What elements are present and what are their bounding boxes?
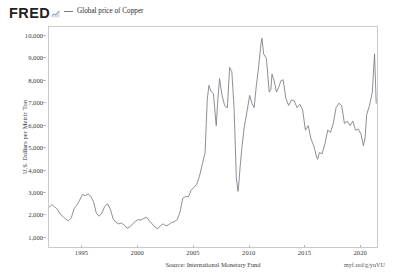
line-swatch-icon: [64, 11, 73, 12]
y-tick-mark: [43, 147, 46, 148]
y-tick-mark: [43, 80, 46, 81]
fred-chart-figure: FRED Global price of Copper 1,0002,0003,…: [0, 0, 397, 280]
x-tick-mark: [137, 245, 138, 248]
y-tick-label: 9,000: [28, 54, 43, 61]
y-tick-label: 6,000: [28, 121, 43, 128]
fred-logo: FRED: [9, 6, 50, 21]
x-axis: 199520002005201020152020: [48, 249, 378, 261]
y-tick-label: 3,000: [28, 188, 43, 195]
y-tick-mark: [43, 57, 46, 58]
series-line-copper: [49, 27, 378, 248]
x-tick-mark: [249, 245, 250, 248]
x-tick-label: 2005: [186, 249, 199, 256]
x-tick-label: 2020: [354, 249, 367, 256]
x-tick-mark: [360, 245, 361, 248]
mini-line-chart-icon: [51, 10, 60, 18]
y-tick-mark: [43, 214, 46, 215]
x-tick-label: 2000: [131, 249, 144, 256]
permalink-url[interactable]: myf.red/g/yuVU: [344, 261, 385, 268]
y-tick-label: 2,000: [28, 211, 43, 218]
y-tick-mark: [43, 237, 46, 238]
x-tick-label: 2010: [242, 249, 255, 256]
y-tick-label: 5,000: [28, 144, 43, 151]
x-tick-mark: [304, 245, 305, 248]
x-tick-label: 1995: [75, 249, 88, 256]
y-tick-mark: [43, 35, 46, 36]
chart-footer: Source: International Monetary Fund myf.…: [0, 261, 397, 275]
chart-legend: Global price of Copper: [64, 7, 143, 15]
y-tick-mark: [43, 170, 46, 171]
y-tick-mark: [43, 125, 46, 126]
x-tick-label: 2015: [298, 249, 311, 256]
y-tick-mark: [43, 192, 46, 193]
legend-series-label: Global price of Copper: [77, 7, 143, 15]
plot-area: [48, 26, 378, 248]
y-tick-label: 1,000: [28, 233, 43, 240]
y-tick-mark: [43, 102, 46, 103]
x-tick-mark: [193, 245, 194, 248]
y-axis-title: U.S. Dollars per Metric Ton: [19, 26, 30, 248]
y-tick-label: 8,000: [28, 76, 43, 83]
x-tick-mark: [81, 245, 82, 248]
y-tick-label: 4,000: [28, 166, 43, 173]
chart-header: FRED Global price of Copper: [0, 0, 397, 26]
source-note: Source: International Monetary Fund: [48, 261, 378, 268]
y-tick-label: 7,000: [28, 99, 43, 106]
